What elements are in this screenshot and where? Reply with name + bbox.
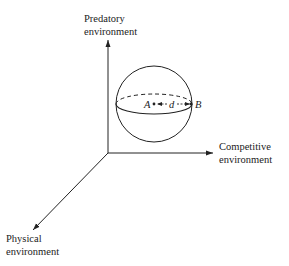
competitive-axis-label-line1: Competitive <box>219 141 271 152</box>
point-b-label: B <box>195 99 202 110</box>
niche-sphere: A d B <box>116 66 202 142</box>
distance-label: d <box>169 99 175 110</box>
axes <box>33 40 213 230</box>
point-a-label: A <box>143 99 151 110</box>
physical-axis-label-line2: environment <box>6 246 59 257</box>
point-b-dot <box>190 103 193 106</box>
equator-back-dashed <box>116 94 192 104</box>
equator-front-solid <box>116 104 192 114</box>
competitive-axis-label-line2: environment <box>219 154 272 165</box>
predatory-axis-label-line1: Predatory <box>84 13 126 24</box>
predatory-axis-label-line2: environment <box>84 26 137 37</box>
niche-space-diagram: Predatory environment Competitive enviro… <box>0 0 289 266</box>
point-a-dot <box>153 103 156 106</box>
physical-axis <box>33 153 108 230</box>
physical-axis-label-line1: Physical <box>6 233 42 244</box>
